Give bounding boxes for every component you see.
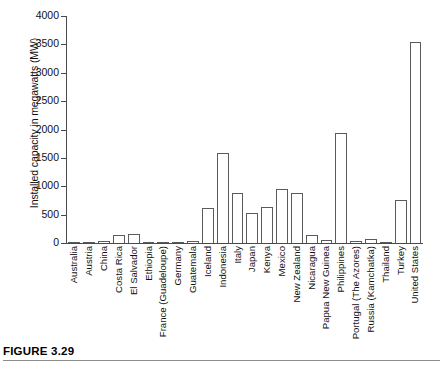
category-slot: Mexico [275, 244, 290, 340]
y-axis-tick-label: 3000 [36, 66, 59, 78]
x-axis-category-labels: AustraliaAustriaChinaCosta RicaEl Salvad… [67, 244, 423, 340]
bar-slot [245, 16, 260, 243]
x-axis-tick-label: Russia (Kamchatka) [366, 246, 376, 332]
x-axis-tick-label: Iceland [203, 246, 213, 277]
category-slot: New Zealand [289, 244, 304, 340]
x-axis-tick-label: Thailand [381, 246, 391, 283]
y-axis-tick-mark [61, 158, 66, 159]
bar[interactable] [187, 241, 199, 243]
category-slot: Turkey [393, 244, 408, 340]
y-axis-tick-mark [61, 186, 66, 187]
category-slot: France (Guadeloupe) [156, 244, 171, 340]
bar[interactable] [172, 242, 184, 243]
bar-slot [349, 16, 364, 243]
category-slot: Guatemala [186, 244, 201, 340]
bar-slot [111, 16, 126, 243]
bar[interactable] [350, 241, 362, 243]
bar-slot [141, 16, 156, 243]
bar[interactable] [365, 239, 377, 243]
y-axis-tick: 3500 [32, 44, 66, 45]
bar[interactable] [321, 240, 333, 243]
bar[interactable] [380, 242, 392, 243]
x-axis-tick-label: Turkey [396, 246, 406, 275]
bar[interactable] [83, 242, 95, 243]
bar[interactable] [217, 153, 229, 243]
y-axis-tick: 500 [32, 215, 66, 216]
y-axis-tick-mark [61, 101, 66, 102]
x-axis-tick-label: Indonesia [218, 246, 228, 288]
x-axis-tick-label: Costa Rica [114, 246, 124, 293]
y-axis-tick-mark [61, 130, 66, 131]
y-axis-tick-label: 1000 [36, 179, 59, 191]
category-slot: Nicaragua [304, 244, 319, 340]
bar[interactable] [157, 242, 169, 243]
y-axis-tick: 0 [32, 243, 66, 244]
x-axis-tick-label: Mexico [277, 246, 287, 276]
y-axis-tick-mark [61, 16, 66, 17]
figure-caption: FIGURE 3.29 [3, 345, 440, 361]
bar-slot [304, 16, 319, 243]
bar[interactable] [246, 213, 258, 243]
y-axis-tick-label: 500 [41, 208, 59, 220]
bar-slot [126, 16, 141, 243]
y-axis-tick: 2000 [32, 130, 66, 131]
bar[interactable] [291, 193, 303, 244]
y-axis-tick-label: 4000 [36, 9, 59, 21]
bar[interactable] [276, 189, 288, 243]
category-slot: Ethiopia [141, 244, 156, 340]
bar-slot [289, 16, 304, 243]
bar[interactable] [395, 200, 407, 243]
y-axis-tick-mark [61, 44, 66, 45]
y-axis-tick-label: 2500 [36, 94, 59, 106]
x-axis-tick-label: Australia [69, 246, 79, 283]
bar[interactable] [68, 242, 80, 243]
bar[interactable] [335, 133, 347, 243]
y-axis-tick-mark [61, 243, 66, 244]
bar[interactable] [232, 193, 244, 244]
bar-slot [260, 16, 275, 243]
y-axis-tick: 3000 [32, 73, 66, 74]
bar-series [67, 16, 423, 243]
bar[interactable] [306, 235, 318, 243]
bar-slot [364, 16, 379, 243]
category-slot: Austria [82, 244, 97, 340]
x-axis-tick-label: Japan [247, 246, 257, 272]
category-slot: Italy [230, 244, 245, 340]
bar[interactable] [143, 242, 155, 243]
category-slot: Russia (Kamchatka) [364, 244, 379, 340]
x-axis-tick-label: Papua New Guinea [321, 246, 331, 329]
y-axis-tick-mark [61, 215, 66, 216]
x-axis-tick-label: Austria [84, 246, 94, 276]
bar-slot [393, 16, 408, 243]
x-axis-tick-label: Italy [233, 246, 243, 264]
bar[interactable] [202, 208, 214, 243]
y-axis-tick: 1500 [32, 158, 66, 159]
bar-slot [97, 16, 112, 243]
category-slot: Australia [67, 244, 82, 340]
x-axis-tick-label: Guatemala [188, 246, 198, 293]
bar[interactable] [113, 235, 125, 243]
x-axis-tick-label: New Zealand [292, 246, 302, 303]
bar-slot [67, 16, 82, 243]
bar-slot [378, 16, 393, 243]
bar-slot [275, 16, 290, 243]
x-axis-tick-label: Nicaragua [307, 246, 317, 290]
bar-slot [156, 16, 171, 243]
x-axis-tick-label: Ethiopia [144, 246, 154, 281]
bar-slot [186, 16, 201, 243]
x-axis-tick-label: Philippines [336, 246, 346, 292]
plot-area: 40003500300025002000150010005000 [66, 16, 423, 243]
figure-caption-label: FIGURE 3.29 [3, 345, 440, 357]
figure-container: Installed capacity in megawatts (MW) 400… [0, 0, 443, 372]
bar[interactable] [98, 241, 110, 243]
x-axis-tick-label: Kenya [262, 246, 272, 273]
bar[interactable] [128, 234, 140, 243]
bar-slot [334, 16, 349, 243]
bar[interactable] [261, 207, 273, 243]
category-slot: Iceland [200, 244, 215, 340]
bar[interactable] [410, 42, 422, 243]
category-slot: Portugal (The Azores) [349, 244, 364, 340]
category-slot: China [97, 244, 112, 340]
category-slot: Philippines [334, 244, 349, 340]
category-slot: Kenya [260, 244, 275, 340]
